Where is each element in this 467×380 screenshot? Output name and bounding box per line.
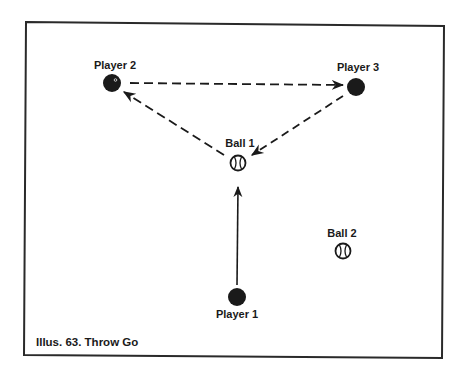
baseball-icon	[231, 156, 246, 171]
arrow-player1-to-ball1	[237, 187, 238, 285]
arrow-ball1-to-player2	[124, 92, 224, 155]
arrow-player3-to-ball1	[252, 96, 343, 155]
player-dot-icon	[347, 78, 365, 96]
player-dot-icon	[228, 288, 246, 306]
figure-caption: Illus. 63. Throw Go	[36, 336, 138, 348]
arrow-player2-to-player3	[130, 83, 343, 85]
player-dot-icon	[103, 74, 121, 92]
node-ball1: Ball 1	[225, 137, 254, 171]
node-player2: Player 2	[94, 59, 136, 92]
node-player1: Player 1	[216, 288, 258, 320]
node-ball2: Ball 2	[327, 227, 356, 259]
player1-label: Player 1	[216, 308, 258, 320]
player2-label: Player 2	[94, 59, 136, 71]
player3-label: Player 3	[337, 61, 379, 73]
ball1-label: Ball 1	[225, 137, 254, 149]
throw-go-diagram: Player 2 Player 3 Ball 1 Player 1 Ball 2…	[0, 0, 467, 380]
ball2-label: Ball 2	[327, 227, 356, 239]
node-player3: Player 3	[337, 61, 379, 96]
baseball-icon	[336, 244, 351, 259]
